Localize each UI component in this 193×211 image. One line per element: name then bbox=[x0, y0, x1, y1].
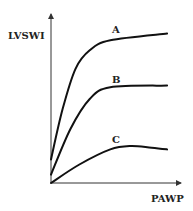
x-axis-label: PAWP bbox=[151, 193, 184, 204]
y-axis-label: LVSWI bbox=[8, 30, 45, 41]
series-line-c bbox=[51, 146, 167, 183]
series-label-b: B bbox=[112, 74, 120, 85]
frank-starling-chart: LVSWI PAWP A B C bbox=[0, 0, 193, 211]
series-line-b bbox=[51, 86, 167, 175]
series-label-a: A bbox=[111, 24, 120, 35]
series-line-a bbox=[51, 34, 167, 160]
series-label-c: C bbox=[112, 134, 120, 145]
